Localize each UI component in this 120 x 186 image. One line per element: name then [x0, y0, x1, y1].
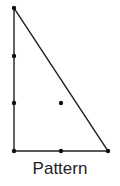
dot [12, 149, 16, 153]
caption-label: Pattern [0, 159, 120, 179]
dot [12, 54, 16, 58]
dot [59, 149, 63, 153]
dot [59, 101, 63, 105]
dot [12, 101, 16, 105]
dot [12, 6, 16, 10]
triangle-outline [14, 8, 108, 151]
dot [106, 149, 110, 153]
